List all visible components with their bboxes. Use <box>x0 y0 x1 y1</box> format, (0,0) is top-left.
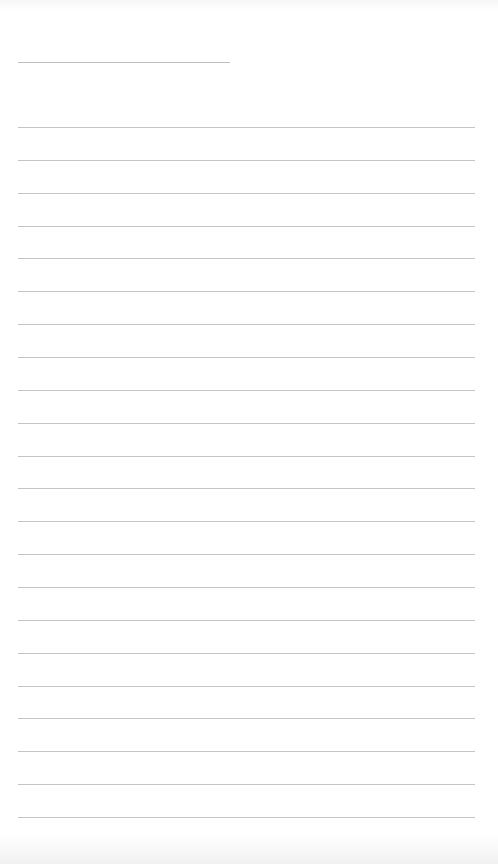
ruled-line[interactable] <box>18 456 475 457</box>
ruled-line[interactable] <box>18 193 475 194</box>
ruled-line[interactable] <box>18 291 475 292</box>
ruled-line[interactable] <box>18 357 475 358</box>
ruled-line[interactable] <box>18 653 475 654</box>
ruled-line[interactable] <box>18 390 475 391</box>
ruled-line[interactable] <box>18 587 475 588</box>
ruled-line[interactable] <box>18 160 475 161</box>
ruled-line[interactable] <box>18 127 475 128</box>
ruled-line[interactable] <box>18 817 475 818</box>
ruled-line[interactable] <box>18 324 475 325</box>
ruled-line[interactable] <box>18 718 475 719</box>
ruled-line[interactable] <box>18 226 475 227</box>
ruled-line[interactable] <box>18 258 475 259</box>
title-line[interactable] <box>18 62 230 63</box>
notepaper-page <box>0 0 498 864</box>
ruled-line[interactable] <box>18 686 475 687</box>
ruled-line[interactable] <box>18 488 475 489</box>
ruled-line[interactable] <box>18 784 475 785</box>
ruled-line[interactable] <box>18 423 475 424</box>
top-edge-shadow <box>0 0 498 10</box>
ruled-line[interactable] <box>18 751 475 752</box>
ruled-line[interactable] <box>18 620 475 621</box>
ruled-line[interactable] <box>18 554 475 555</box>
ruled-line[interactable] <box>18 521 475 522</box>
bottom-edge-shadow <box>0 834 498 864</box>
